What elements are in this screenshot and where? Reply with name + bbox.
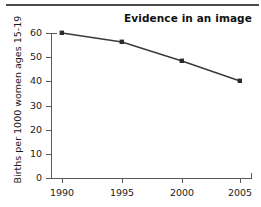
data-point-marker	[60, 31, 64, 35]
data-point-marker	[180, 59, 184, 63]
series-line	[62, 33, 240, 81]
data-point-marker	[238, 79, 242, 83]
data-point-marker	[120, 40, 124, 44]
chart-figure: Evidence in an image 60 50 40 30 20 10 0…	[0, 0, 261, 207]
data-series-layer	[0, 0, 261, 207]
